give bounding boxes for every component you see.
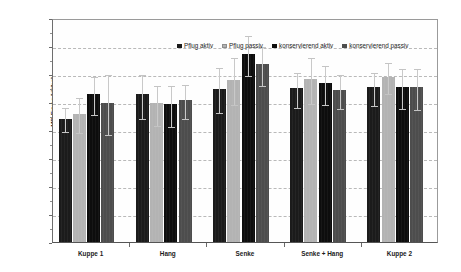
error-bar-cap-lower <box>62 132 69 133</box>
error-bar-cap-upper <box>105 75 112 76</box>
x-axis-category-label: Senke + Hang <box>284 250 361 257</box>
error-bar-cap-upper <box>91 77 98 78</box>
error-bar-cap-lower <box>182 119 189 120</box>
x-axis-category-label: Hang <box>129 250 206 257</box>
error-bar <box>65 108 66 132</box>
error-bar-cap-lower <box>168 127 175 128</box>
error-bar-cap-lower <box>414 110 421 111</box>
error-bar-cap-lower <box>308 104 315 105</box>
error-bar <box>94 77 95 115</box>
error-bar <box>388 63 389 95</box>
error-bar <box>171 86 172 127</box>
bar <box>242 54 255 242</box>
x-axis-tick-mark <box>129 243 130 247</box>
error-bar-cap-lower <box>154 126 161 127</box>
error-bar <box>374 73 375 107</box>
error-bar-cap-upper <box>385 63 392 64</box>
error-bar-cap-lower <box>76 133 83 134</box>
error-bar <box>402 69 403 109</box>
error-bar-cap-lower <box>139 119 146 120</box>
error-bar <box>417 69 418 110</box>
bar <box>319 83 332 242</box>
legend-label: konservierend passiv <box>349 43 408 49</box>
plot-area: Pflug aktivPflug passivkonservierend akt… <box>52 19 438 243</box>
error-bar-cap-upper <box>76 98 83 99</box>
bar <box>87 94 100 242</box>
error-bar-cap-upper <box>139 75 146 76</box>
error-bar <box>157 86 158 127</box>
legend-item: konservierend passiv <box>342 43 408 49</box>
error-bar-cap-upper <box>371 73 378 74</box>
error-bar <box>340 75 341 109</box>
legend-item: konservierend aktiv <box>272 43 333 49</box>
bar <box>179 100 192 242</box>
error-bar-cap-lower <box>245 76 252 77</box>
error-bar-cap-upper <box>308 58 315 59</box>
error-bar-cap-lower <box>105 135 112 136</box>
error-bar-cap-upper <box>414 69 421 70</box>
legend-item: Pflug aktiv <box>177 43 213 49</box>
x-axis-category-label: Kuppe 1 <box>52 250 129 257</box>
bar <box>382 77 395 242</box>
error-bar <box>325 66 326 105</box>
error-bar-cap-upper <box>245 36 252 37</box>
error-bar-cap-lower <box>337 109 344 110</box>
error-bar <box>219 68 220 113</box>
bar <box>367 87 380 242</box>
error-bar-cap-upper <box>294 73 301 74</box>
legend-swatch-icon <box>222 44 227 49</box>
legend-label: Pflug aktiv <box>184 43 213 49</box>
x-axis-category-label: Kuppe 2 <box>361 250 438 257</box>
legend-swatch-icon <box>177 44 182 49</box>
bar <box>256 64 269 242</box>
x-axis-category-label: Senke <box>206 250 283 257</box>
error-bar-cap-upper <box>154 86 161 87</box>
x-axis-tick-mark <box>361 243 362 247</box>
bar <box>290 88 303 242</box>
error-bar-cap-upper <box>337 75 344 76</box>
error-bar-cap-lower <box>259 86 266 87</box>
error-bar-cap-lower <box>231 105 238 106</box>
error-bar-cap-lower <box>216 113 223 114</box>
legend-label: konservierend aktiv <box>279 43 333 49</box>
error-bar-cap-upper <box>216 68 223 69</box>
error-bar <box>297 73 298 108</box>
error-bar-cap-upper <box>399 69 406 70</box>
error-bar-cap-upper <box>168 86 175 87</box>
error-bar <box>108 75 109 135</box>
bar <box>396 87 409 242</box>
x-axis-tick-mark <box>206 243 207 247</box>
error-bar-cap-lower <box>91 115 98 116</box>
error-bar-cap-upper <box>322 66 329 67</box>
error-bar-cap-upper <box>182 85 189 86</box>
legend-swatch-icon <box>272 44 277 49</box>
error-bar-cap-upper <box>231 58 238 59</box>
error-bar-cap-upper <box>62 108 69 109</box>
legend-swatch-icon <box>342 44 347 49</box>
error-bar-cap-lower <box>385 94 392 95</box>
error-bar-cap-lower <box>322 105 329 106</box>
error-bar <box>311 58 312 104</box>
error-bar <box>262 47 263 86</box>
x-axis-tick-mark <box>284 243 285 247</box>
error-bar-cap-lower <box>294 108 301 109</box>
error-bar <box>142 75 143 120</box>
legend: Pflug aktivPflug passivkonservierend akt… <box>177 43 408 49</box>
error-bar <box>185 85 186 119</box>
bar <box>333 90 346 242</box>
legend-label: Pflug passiv <box>229 43 263 49</box>
error-bar-cap-lower <box>399 109 406 110</box>
error-bar <box>79 98 80 133</box>
bar-chart: MD-Ertrag [dt/ha] 020406080100120140160 … <box>0 0 461 272</box>
error-bar-cap-lower <box>371 106 378 107</box>
bar <box>59 119 72 242</box>
y-axis-tick-mark <box>49 243 52 244</box>
legend-item: Pflug passiv <box>222 43 263 49</box>
error-bar <box>234 58 235 106</box>
